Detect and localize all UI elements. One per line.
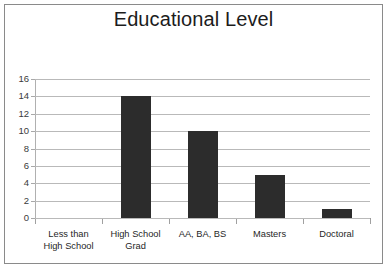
y-axis-tick-label: 6 [3, 161, 29, 171]
x-axis-category-label: Doctoral [297, 228, 376, 240]
y-axis-tick-mark [31, 114, 35, 115]
y-axis-tick-label: 14 [3, 91, 29, 101]
gridline [35, 218, 370, 219]
y-axis-tick-mark [31, 79, 35, 80]
y-axis-tick-label: 12 [3, 109, 29, 119]
chart-title: Educational Level [0, 8, 387, 31]
y-axis-tick-label: 8 [3, 144, 29, 154]
y-axis-tick-label: 2 [3, 196, 29, 206]
y-axis-tick-label: 4 [3, 178, 29, 188]
plot-area [35, 79, 370, 218]
y-axis-tick-mark [31, 166, 35, 167]
y-axis-tick-mark [31, 201, 35, 202]
y-axis-tick-mark [31, 149, 35, 150]
y-axis-tick-mark [31, 183, 35, 184]
y-axis-tick-label: 10 [3, 126, 29, 136]
y-axis-tick-mark [31, 96, 35, 97]
x-axis-tick-mark [102, 219, 103, 224]
x-axis-tick-mark [236, 219, 237, 224]
gridline [35, 96, 370, 97]
y-axis-tick-label: 16 [3, 74, 29, 84]
y-axis-tick-label: 0 [3, 213, 29, 223]
bar [188, 131, 218, 218]
bar [322, 209, 352, 218]
x-axis-tick-mark [370, 219, 371, 224]
bar [255, 175, 285, 218]
gridline [35, 114, 370, 115]
x-axis-tick-mark [169, 219, 170, 224]
y-axis-tick-mark [31, 131, 35, 132]
gridline [35, 79, 370, 80]
bar [121, 96, 151, 218]
x-axis-tick-mark [35, 219, 36, 224]
chart-screenshot: Educational Level 0246810121416 Less tha… [0, 0, 387, 268]
x-axis-tick-mark [303, 219, 304, 224]
